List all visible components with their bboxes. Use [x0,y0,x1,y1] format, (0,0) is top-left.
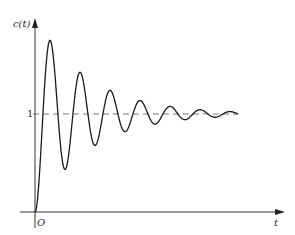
y-tick-one: 1 [27,109,33,119]
x-axis-arrow-icon [275,209,285,215]
x-axis-label: t [274,218,278,228]
y-axis-arrow-icon [32,18,38,28]
origin-label: O [37,218,45,228]
y-axis-label: c(t) [13,19,30,29]
response-curve [35,40,238,212]
step-response-chart [0,0,295,235]
